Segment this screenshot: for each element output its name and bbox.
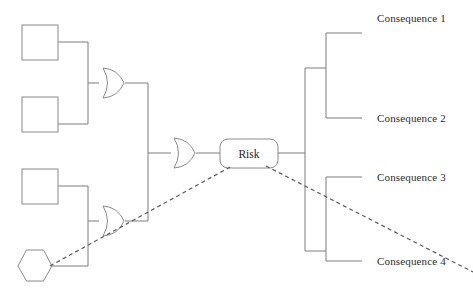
threat-node-square-3[interactable] <box>22 169 58 204</box>
risk-node[interactable]: Risk <box>220 139 278 168</box>
or-gate-icon <box>103 68 124 98</box>
edge-group-top-branch <box>58 42 171 153</box>
edge-threat3-to-gate-bottom <box>58 186 99 221</box>
consequence-label-2: Consequence 2 <box>377 112 446 124</box>
escalation-line-left <box>50 166 232 266</box>
threat-node-hexagon[interactable] <box>18 250 52 281</box>
edge-gate-top-to-gate-center <box>125 83 171 153</box>
consequence-label-4: Consequence 4 <box>377 255 446 267</box>
risk-node-label: Risk <box>238 148 259 160</box>
edge-group-bottom-branch <box>52 153 148 266</box>
edge-gate-bottom-to-trunk <box>125 153 148 221</box>
or-gate-icon <box>174 138 195 168</box>
consequence-label-1: Consequence 1 <box>377 12 446 24</box>
gate-or-top[interactable] <box>103 68 124 98</box>
threat-node-square-1[interactable] <box>22 25 58 60</box>
threat-node-square-2[interactable] <box>22 97 58 132</box>
edge-threat2-to-gate-top <box>58 83 88 124</box>
edge-threat4-to-gate-bottom <box>52 221 88 266</box>
edge-threat1-to-gate-top <box>58 42 99 83</box>
consequence-label-3: Consequence 3 <box>377 171 446 183</box>
gate-or-center[interactable] <box>174 138 195 168</box>
bowtie-risk-diagram: Risk Consequence 1 Consequence 2 Consequ… <box>0 0 473 291</box>
diagram-canvas: Risk Consequence 1 Consequence 2 Consequ… <box>0 0 473 291</box>
